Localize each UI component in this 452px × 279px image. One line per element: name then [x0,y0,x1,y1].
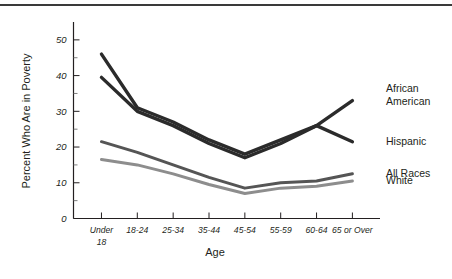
series-label-african-american: AfricanAmerican [386,82,431,107]
y-tick-label: 30 [56,106,67,117]
x-axis-tick-labels: Under1818-2425-3435-4445-5455-5960-6465 … [90,225,374,247]
x-tick-label: 18-24 [126,225,148,235]
x-tick-label: 65 or Over [332,225,374,235]
data-series-group [101,54,352,193]
poverty-by-age-line-chart: 01020304050 Under1818-2425-3435-4445-545… [0,0,452,279]
series-line-white [101,160,352,194]
series-label-white: White [386,174,413,186]
x-tick-label: Under18 [90,225,115,247]
x-axis-ticks [101,213,352,219]
y-tick-label: 20 [55,141,67,152]
series-label-hispanic: Hispanic [386,135,426,147]
chart-canvas: 01020304050 Under1818-2425-3435-4445-545… [0,0,452,279]
x-axis-title: Age [205,246,225,258]
y-tick-label: 50 [56,34,67,45]
x-tick-label: 25-34 [161,225,184,235]
y-tick-label: 0 [61,213,67,224]
series-line-african-american [101,54,352,154]
y-axis-title: Percent Who Are in Poverty [20,53,32,189]
y-axis-tick-labels: 01020304050 [55,34,67,224]
y-tick-label: 10 [56,177,67,188]
x-tick-label: 35-44 [198,225,220,235]
x-tick-label: 60-64 [306,225,328,235]
x-tick-label: 45-54 [234,225,256,235]
x-tick-label: 55-59 [270,225,292,235]
series-labels-group: AfricanAmericanHispanicAll RacesWhite [386,82,431,186]
y-tick-label: 40 [56,70,67,81]
